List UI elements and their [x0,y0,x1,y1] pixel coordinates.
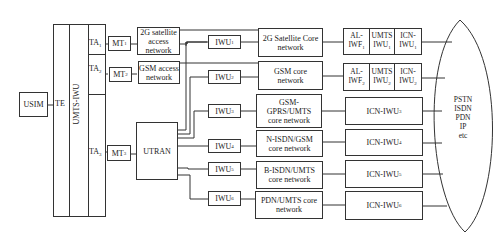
gsm-access-network-box: GSM access network [138,61,180,84]
mt3-box: MT3 [107,145,131,161]
interworking-block-1: AL-IWF1 UMTSIWU1 ICN-IWU1 [343,28,422,55]
pdn-umts-core-network-box: PDN/UMTS core network [255,191,323,219]
b-isdn-umts-core-network-box: B-ISDN/UMTS core network [256,161,323,189]
interworking-block-2: AL-IWF2 UMTSIWU2 ICN-IWU2 [343,63,422,91]
al-iwf2-cell: AL-IWF2 [344,64,370,90]
2g-satellite-core-network-box: 2G Satellite Core network [258,28,323,57]
al-iwf1-cell: AL-IWF1 [344,29,370,54]
gsm-core-network-box: GSM core network [258,61,323,90]
icn-iwu3-box: ICN-IWU3 [345,97,423,125]
ta2-divider [88,94,105,95]
te-label: TE [55,99,65,108]
te-divider [69,25,70,216]
iwu5-box: IWU5 [208,162,241,176]
network-architecture-diagram: USIM TE UMTS-IWU TA1 TA2 TA3 MT1 MT2 MT3… [0,0,499,240]
icn-iwu6-box: ICN-IWU6 [345,191,423,220]
mt1-box: MT1 [108,36,131,51]
iwu6-box: IWU6 [208,191,241,206]
ta2-label: TA2 [89,64,102,74]
utran-box: UTRAN [136,122,178,180]
icn-iwu2-cell: ICN-IWU2 [395,64,421,90]
umts-iwu1-cell: UMTSIWU1 [370,29,395,54]
iwu4-box: IWU4 [208,139,241,153]
usim-box: USIM [19,92,48,117]
iwu1-box: IWU1 [208,35,241,49]
2g-satellite-access-network-box: 2G satellite access network [137,27,180,55]
ta3-label: TA3 [89,147,102,157]
external-networks-label: PSTN ISDN PDN IP etc [448,95,478,140]
ta1-label: TA1 [89,38,102,48]
iwu2-box: IWU2 [208,70,241,84]
iwu3-box: IWU3 [208,104,241,118]
ta1-divider [88,54,105,55]
usim-label: USIM [23,100,43,109]
gsm-gprs-umts-core-network-box: GSM- GPRS/UMTS core network [256,94,322,128]
umts-iwu2-cell: UMTSIWU2 [370,64,395,90]
icn-iwu5-box: ICN-IWU5 [345,160,423,188]
icn-iwu1-cell: ICN-IWU1 [395,29,421,54]
icn-iwu4-box: ICN-IWU4 [345,129,423,156]
n-isdn-gsm-core-network-box: N-ISDN/GSM core network [256,130,323,157]
umts-iwu-label: UMTS-IWU [72,85,81,125]
mt2-box: MT2 [109,67,132,82]
